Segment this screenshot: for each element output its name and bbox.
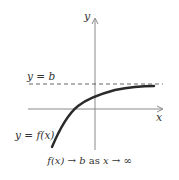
caption-fx: f(x) xyxy=(47,155,64,166)
caption-x: x xyxy=(103,155,109,166)
caption-b: b xyxy=(79,155,85,166)
x-axis-label: x xyxy=(156,111,162,124)
asymptote-label: y = b xyxy=(27,70,55,82)
y-axis-label: y xyxy=(84,10,90,23)
graph-canvas xyxy=(0,0,179,180)
horizontal-asymptote-figure: y x y = b y = f(x) f(x) → b as x → ∞ xyxy=(0,0,179,180)
function-curve xyxy=(52,86,154,147)
caption: f(x) → b as x → ∞ xyxy=(0,155,179,166)
caption-arrow: → xyxy=(68,155,76,166)
curve-label: y = f(x) xyxy=(15,129,54,141)
caption-as: as xyxy=(89,155,100,166)
caption-infinity: ∞ xyxy=(123,155,131,166)
caption-arrow-2: → xyxy=(112,155,120,166)
